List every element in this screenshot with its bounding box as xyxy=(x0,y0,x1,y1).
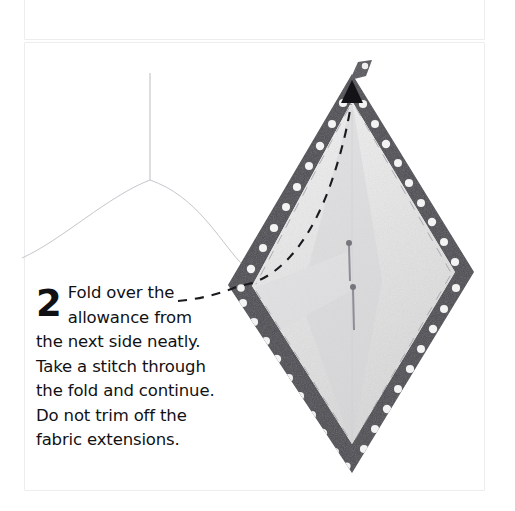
previous-step-panel xyxy=(24,0,485,40)
instruction-block: 2 Fold over the allowance from the next … xyxy=(36,281,218,453)
step-number: 2 xyxy=(36,282,61,326)
instruction-text: Fold over the allowance from the next si… xyxy=(36,283,215,449)
page-root: 2 Fold over the allowance from the next … xyxy=(0,0,515,511)
